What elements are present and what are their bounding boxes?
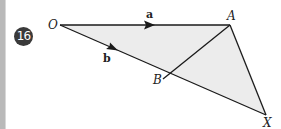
point-X-label: X <box>262 116 272 129</box>
point-B-label: B <box>152 73 162 87</box>
point-A-label: A <box>226 9 236 23</box>
vector-b-label: b <box>103 52 111 65</box>
vector-diagram: O A B X a b <box>0 0 281 129</box>
vector-a-label: a <box>146 8 153 21</box>
point-O-label: O <box>48 18 58 32</box>
